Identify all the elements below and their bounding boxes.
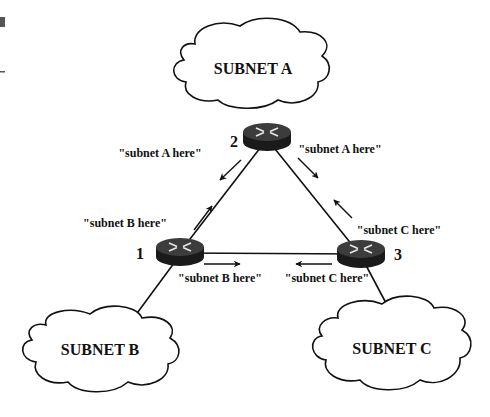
router-number-3: 3 bbox=[394, 246, 402, 263]
link-r1-r3 bbox=[180, 253, 361, 254]
adv-label-r2-r3: "subnet A here" bbox=[298, 142, 381, 156]
arrow-r2-to-r3 bbox=[298, 158, 318, 178]
adv-label-r2-r1: "subnet A here" bbox=[118, 146, 201, 160]
network-diagram: SUBNET A SUBNET B SUBNET C 2 1 3 "subnet… bbox=[0, 0, 490, 417]
router-number-1: 1 bbox=[136, 245, 144, 262]
cloud-label-b: SUBNET B bbox=[61, 341, 140, 358]
adv-label-r1-r3: "subnet B here" bbox=[178, 271, 262, 285]
links bbox=[132, 139, 386, 320]
arrow-r1-to-r2 bbox=[194, 206, 212, 230]
cloud-label-c: SUBNET C bbox=[352, 340, 431, 357]
router-number-2: 2 bbox=[230, 133, 238, 150]
adv-label-r3-r2: "subnet C here" bbox=[357, 223, 441, 237]
adv-label-r3-r1: "subnet C here" bbox=[285, 271, 369, 285]
router-1-icon bbox=[156, 238, 204, 266]
edge-artifact bbox=[0, 71, 5, 73]
router-3-icon bbox=[337, 240, 385, 268]
adv-label-r1-r2: "subnet B here" bbox=[83, 216, 167, 230]
link-r2-r3 bbox=[267, 139, 361, 256]
edge-artifact bbox=[0, 17, 5, 27]
arrow-r3-to-r2 bbox=[334, 200, 352, 218]
advertisement-arrows bbox=[194, 158, 352, 264]
router-2-icon bbox=[243, 123, 291, 151]
cloud-label-a: SUBNET A bbox=[214, 60, 293, 77]
